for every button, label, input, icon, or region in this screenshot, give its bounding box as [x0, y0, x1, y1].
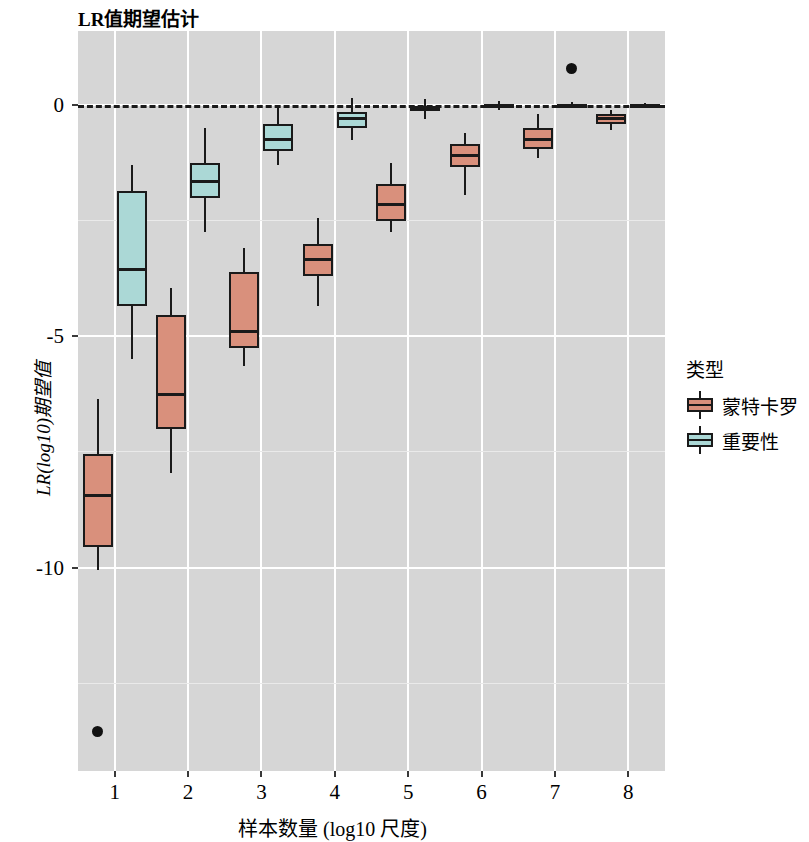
page-title: LR值期望估计: [78, 4, 199, 31]
box-plot-median: [557, 104, 587, 107]
box-plot-box: [83, 454, 113, 547]
y-axis-tick-mark: [72, 567, 78, 569]
box-plot-median: [190, 180, 220, 183]
box-plot-median: [376, 203, 406, 206]
plot-panel: [78, 31, 665, 771]
legend-key-box-icon: [686, 426, 714, 454]
y-axis-tick-label: -10: [0, 555, 64, 580]
grid-line-vertical: [260, 31, 262, 771]
legend-title: 类型: [686, 355, 806, 382]
box-plot-median: [83, 494, 113, 497]
box-whisker-upper: [351, 98, 353, 112]
x-axis-tick-mark: [260, 771, 262, 777]
box-whisker-upper: [317, 218, 319, 243]
grid-line-vertical: [481, 31, 483, 771]
legend-item-label: 蒙特卡罗: [722, 392, 798, 419]
box-whisker-lower: [390, 221, 392, 233]
grid-line-horizontal-major: [78, 567, 665, 569]
box-whisker-lower: [537, 149, 539, 158]
box-whisker-lower: [204, 198, 206, 233]
box-whisker-upper: [243, 248, 245, 271]
box-plot-median: [263, 138, 293, 141]
legend-item[interactable]: 重要性: [686, 426, 806, 454]
legend: 类型 蒙特卡罗重要性: [686, 355, 806, 461]
x-axis-tick-label: 6: [476, 780, 487, 805]
box-plot-box: [156, 315, 186, 428]
box-whisker-upper: [424, 99, 426, 105]
grid-line-vertical: [334, 31, 336, 771]
grid-line-vertical: [554, 31, 556, 771]
grid-line-horizontal-minor: [78, 683, 665, 684]
box-plot-box: [117, 191, 147, 307]
box-whisker-upper: [204, 128, 206, 163]
legend-key-box-icon: [686, 391, 714, 419]
box-plot-median: [117, 268, 147, 271]
box-whisker-lower: [464, 167, 466, 195]
box-plot-median: [410, 107, 440, 110]
y-axis-tick-mark: [72, 335, 78, 337]
x-axis-tick-label: 1: [109, 780, 120, 805]
x-axis-tick-mark: [407, 771, 409, 777]
grid-line-horizontal-minor: [78, 220, 665, 221]
box-whisker-upper: [277, 107, 279, 123]
x-axis-tick-label: 7: [550, 780, 561, 805]
box-plot-median: [450, 154, 480, 157]
x-axis-tick-label: 4: [330, 780, 341, 805]
box-plot-box: [229, 272, 259, 348]
y-axis-label: LR(log10)期望值: [28, 361, 55, 496]
box-plot-median: [484, 104, 514, 107]
box-whisker-upper: [97, 399, 99, 455]
box-whisker-lower: [243, 348, 245, 367]
box-whisker-lower: [610, 124, 612, 131]
box-whisker-upper: [170, 288, 172, 316]
x-axis-tick-mark: [554, 771, 556, 777]
grid-line-vertical: [187, 31, 189, 771]
box-whisker-lower: [351, 128, 353, 140]
box-plot-median: [156, 393, 186, 396]
box-whisker-lower: [317, 276, 319, 306]
y-axis-tick-mark: [72, 104, 78, 106]
legend-item[interactable]: 蒙特卡罗: [686, 391, 806, 419]
x-axis-tick-mark: [187, 771, 189, 777]
y-axis-tick-label: 0: [0, 93, 64, 118]
box-whisker-upper: [131, 165, 133, 190]
box-plot-outlier: [92, 726, 103, 737]
x-axis-tick-label: 5: [403, 780, 414, 805]
box-whisker-lower: [170, 429, 172, 473]
box-plot-median: [596, 117, 626, 120]
x-axis-tick-label: 2: [183, 780, 194, 805]
x-axis-tick-mark: [627, 771, 629, 777]
grid-line-vertical: [407, 31, 409, 771]
x-axis-tick-label: 3: [256, 780, 267, 805]
box-whisker-upper: [390, 163, 392, 184]
x-axis-tick-mark: [481, 771, 483, 777]
box-plot-median: [523, 138, 553, 141]
box-whisker-lower: [424, 111, 426, 119]
grid-line-vertical: [627, 31, 629, 771]
x-axis-tick-mark: [334, 771, 336, 777]
grid-line-vertical: [114, 31, 116, 771]
box-whisker-lower: [131, 306, 133, 359]
box-plot-median: [229, 330, 259, 333]
box-plot-median: [630, 104, 660, 107]
x-axis-label: 样本数量 (log10 尺度): [0, 813, 665, 842]
box-whisker-upper: [464, 133, 466, 145]
x-axis-tick-mark: [114, 771, 116, 777]
legend-item-label: 重要性: [722, 427, 779, 454]
box-plot-median: [337, 117, 367, 120]
legend-items: 蒙特卡罗重要性: [686, 391, 806, 454]
y-axis-tick-label: -5: [0, 324, 64, 349]
box-plot-outlier: [566, 63, 577, 74]
box-whisker-lower: [277, 151, 279, 165]
box-plot-median: [303, 258, 333, 261]
box-whisker-lower: [97, 547, 99, 570]
x-axis-tick-label: 8: [623, 780, 634, 805]
grid-line-horizontal-minor: [78, 451, 665, 452]
box-whisker-upper: [537, 114, 539, 128]
